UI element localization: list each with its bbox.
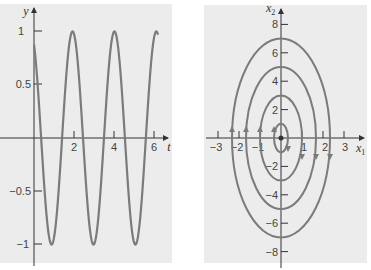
right-ytick-label: −4 [265, 189, 278, 201]
figure: 1 0.5 −0.5 −1 2 4 6 t y [0, 0, 371, 270]
right-ytick-label: −8 [265, 246, 278, 258]
left-ytick-label: 1 [18, 25, 24, 37]
right-ytick-label: 8 [272, 18, 278, 30]
right-xtick-label: −1 [252, 141, 265, 153]
left-xtick-label: 4 [111, 141, 117, 153]
right-xtick-label: 2 [322, 141, 328, 153]
left-ytick-label: −0.5 [9, 185, 31, 197]
right-y-axis-label: x2 [265, 1, 275, 17]
right-xtick-label: −3 [210, 141, 223, 153]
right-ytick-label: 6 [272, 47, 278, 59]
left-ytick-label: 0.5 [16, 78, 31, 90]
right-ytick-label: 4 [272, 75, 278, 87]
left-xtick-label: 6 [151, 141, 157, 153]
right-ytick-label: 2 [272, 104, 278, 116]
left-xtick-label: 2 [71, 141, 77, 153]
right-xtick-label: 3 [342, 141, 348, 153]
equilibrium-point [279, 136, 284, 141]
left-ytick-label: −1 [16, 238, 29, 250]
left-chart: 1 0.5 −0.5 −1 2 4 6 t y [0, 4, 172, 266]
left-y-axis-label: y [22, 4, 29, 18]
right-chart: −3 −2 −1 1 2 3 8 6 4 2 −2 −4 −6 −8 x1 x2 [204, 1, 367, 268]
right-plot-background [204, 5, 367, 263]
right-ytick-label: −6 [265, 217, 278, 229]
